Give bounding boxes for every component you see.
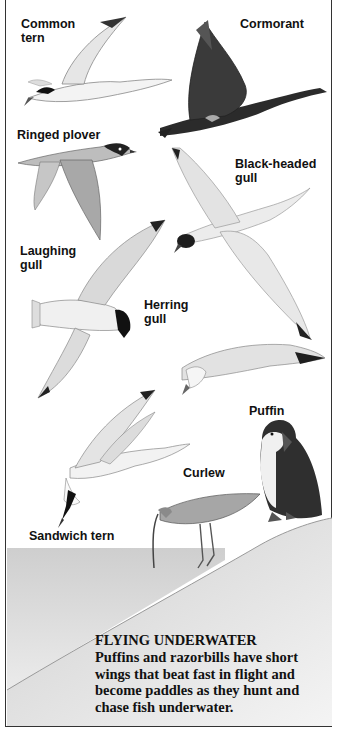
ringed-plover-bird [18, 143, 137, 240]
label-sandwich-tern: Sandwich tern [29, 529, 114, 543]
label-common-tern: Common tern [21, 17, 75, 45]
caption-body: Puffins and razorbills have short wings … [95, 649, 335, 715]
cormorant-bird [158, 20, 327, 138]
label-ringed-plover: Ringed plover [17, 128, 100, 142]
label-black-headed-gull: Black-headed gull [235, 157, 316, 185]
label-herring-gull: Herring gull [144, 298, 188, 326]
label-puffin: Puffin [249, 404, 284, 418]
caption-box: FLYING UNDERWATER Puffins and razorbills… [95, 632, 335, 715]
caption-title: FLYING UNDERWATER [95, 632, 335, 649]
herring-gull-bird [182, 344, 325, 395]
label-cormorant: Cormorant [240, 17, 304, 31]
label-curlew: Curlew [183, 466, 225, 480]
bird-illustration [0, 0, 341, 735]
label-laughing-gull: Laughing gull [20, 244, 76, 272]
puffin-bird [260, 420, 322, 522]
